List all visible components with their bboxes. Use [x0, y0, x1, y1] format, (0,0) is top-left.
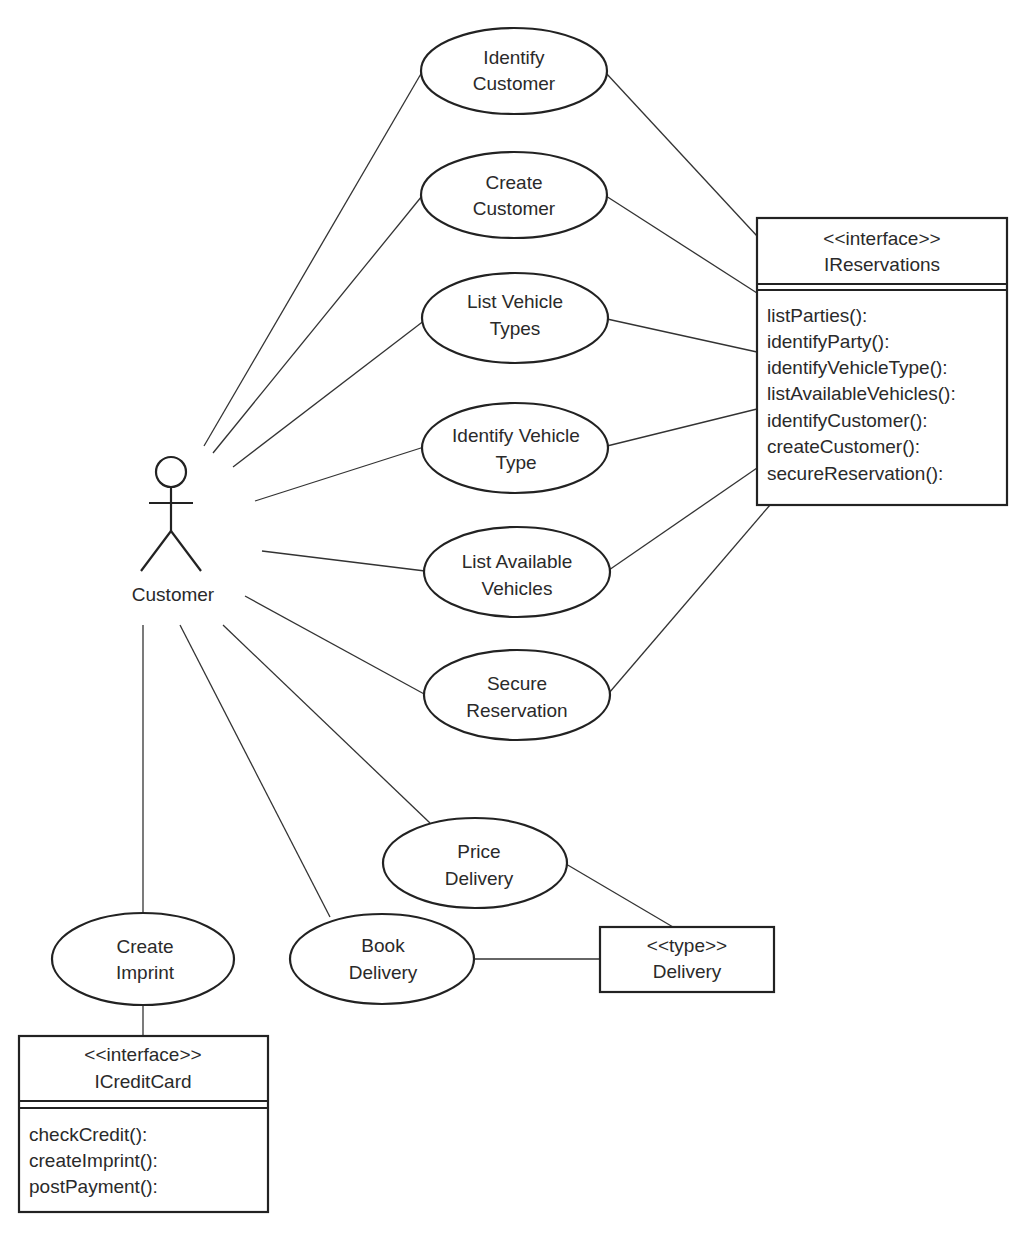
operation: identifyVehicleType():	[767, 357, 948, 378]
assoc-customer-identify-customer	[204, 72, 422, 446]
operation: identifyCustomer():	[767, 410, 928, 431]
use-case-identify-customer[interactable]: Identify Customer	[421, 28, 607, 114]
use-case-label-line2: Imprint	[116, 962, 175, 983]
use-case-label-line2: Delivery	[445, 868, 514, 889]
interface-stereotype: <<interface>>	[84, 1044, 201, 1065]
use-case-label-line1: Create	[485, 172, 542, 193]
assoc-customer-secure-reservation	[245, 596, 426, 695]
interface-icreditcard[interactable]: <<interface>> ICreditCard checkCredit():…	[19, 1036, 268, 1212]
operation: listAvailableVehicles():	[767, 383, 956, 404]
assoc-list-available-vehicles-ireservations	[609, 468, 757, 570]
actor-head-icon	[156, 457, 186, 487]
use-case-identify-vehicle-type[interactable]: Identify Vehicle Type	[422, 403, 608, 493]
use-case-label-line1: Price	[457, 841, 500, 862]
interface-ireservations[interactable]: <<interface>> IReservations listParties(…	[757, 218, 1007, 505]
actor-associations	[143, 72, 430, 917]
use-case-label-line2: Customer	[473, 73, 556, 94]
use-case-label-line2: Customer	[473, 198, 556, 219]
use-case-label-line1: Book	[361, 935, 405, 956]
use-case-label-line2: Types	[490, 318, 541, 339]
interface-name: IReservations	[824, 254, 940, 275]
use-case-secure-reservation[interactable]: Secure Reservation	[424, 650, 610, 740]
use-case-create-imprint[interactable]: Create Imprint	[52, 913, 234, 1005]
interface-stereotype: <<interface>>	[823, 228, 940, 249]
use-case-label-line2: Reservation	[466, 700, 567, 721]
operation: createCustomer():	[767, 436, 920, 457]
assoc-identify-customer-ireservations	[606, 73, 757, 236]
assoc-customer-price-delivery	[223, 625, 430, 823]
assoc-customer-list-available-vehicles	[262, 551, 425, 571]
actor-right-leg-icon	[171, 531, 201, 571]
use-case-book-delivery[interactable]: Book Delivery	[290, 914, 474, 1004]
assoc-list-vehicle-types-ireservations	[607, 319, 757, 352]
assoc-create-customer-ireservations	[606, 196, 757, 293]
assoc-customer-book-delivery	[180, 625, 330, 917]
assoc-price-delivery-delivery	[566, 864, 673, 927]
use-case-diagram: Customer Identify Customer Create Custom…	[0, 0, 1034, 1234]
operation: checkCredit():	[29, 1124, 147, 1145]
type-name: Delivery	[653, 961, 722, 982]
actor-customer[interactable]: Customer	[132, 457, 215, 605]
interface-name: ICreditCard	[94, 1071, 191, 1092]
use-case-label-line1: Create	[116, 936, 173, 957]
actor-left-leg-icon	[141, 531, 171, 571]
type-delivery[interactable]: <<type>> Delivery	[600, 927, 774, 992]
actor-label: Customer	[132, 584, 215, 605]
assoc-identify-vehicle-type-ireservations	[607, 409, 757, 446]
assoc-customer-identify-vehicle-type	[255, 447, 424, 501]
operation: listParties():	[767, 305, 867, 326]
assoc-customer-create-customer	[213, 196, 422, 453]
use-case-label-line1: List Available	[462, 551, 573, 572]
use-case-label-line2: Vehicles	[482, 578, 553, 599]
use-case-label-line2: Type	[495, 452, 536, 473]
operation: postPayment():	[29, 1176, 158, 1197]
operation: createImprint():	[29, 1150, 158, 1171]
use-case-label-line1: List Vehicle	[467, 291, 563, 312]
use-case-create-customer[interactable]: Create Customer	[421, 152, 607, 238]
use-case-label-line1: Secure	[487, 673, 547, 694]
type-stereotype: <<type>>	[647, 935, 727, 956]
operation: secureReservation():	[767, 463, 943, 484]
use-case-label-line1: Identify Vehicle	[452, 425, 580, 446]
use-case-price-delivery[interactable]: Price Delivery	[383, 818, 567, 908]
operation: identifyParty():	[767, 331, 889, 352]
use-case-label-line1: Identify	[483, 47, 545, 68]
use-case-list-available-vehicles[interactable]: List Available Vehicles	[424, 527, 610, 617]
use-case-list-vehicle-types[interactable]: List Vehicle Types	[422, 273, 608, 363]
use-case-label-line2: Delivery	[349, 962, 418, 983]
assoc-secure-reservation-ireservations	[609, 505, 770, 693]
